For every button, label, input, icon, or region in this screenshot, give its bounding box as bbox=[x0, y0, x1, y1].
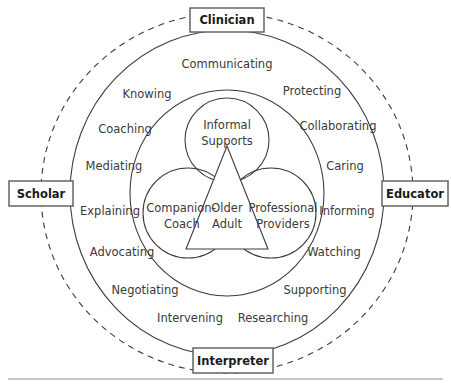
verb-collaborating: Collaborating bbox=[300, 119, 377, 133]
verb-mediating: Mediating bbox=[86, 159, 143, 173]
professional-providers-line2: Providers bbox=[256, 217, 309, 231]
core-label-professional-providers: Professional Providers bbox=[248, 201, 317, 231]
core-label-informal-supports: Informal Supports bbox=[201, 118, 252, 148]
verb-coaching: Coaching bbox=[98, 122, 152, 136]
role-model-diagram: Informal Supports Companion- Coach Profe… bbox=[0, 0, 451, 391]
verb-knowing: Knowing bbox=[122, 87, 171, 101]
verb-communicating: Communicating bbox=[182, 57, 273, 71]
anchor-box-interpreter[interactable]: Interpreter bbox=[193, 348, 273, 373]
anchor-box-educator[interactable]: Educator bbox=[382, 181, 448, 206]
verb-advocating: Advocating bbox=[90, 245, 154, 259]
verb-intervening: Intervening bbox=[157, 311, 223, 325]
verb-explaining: Explaining bbox=[80, 204, 140, 218]
older-adult-triangle bbox=[186, 146, 268, 249]
verb-researching: Researching bbox=[238, 311, 309, 325]
anchor-box-scholar[interactable]: Scholar bbox=[9, 181, 73, 206]
informal-supports-line1: Informal bbox=[203, 118, 251, 132]
verb-protecting: Protecting bbox=[283, 84, 341, 98]
companion-coach-line1: Companion- bbox=[146, 201, 216, 215]
interpreter-label: Interpreter bbox=[197, 354, 269, 368]
verb-caring: Caring bbox=[326, 159, 364, 173]
verb-supporting: Supporting bbox=[283, 283, 346, 297]
anchor-box-clinician[interactable]: Clinician bbox=[190, 8, 264, 32]
scholar-label: Scholar bbox=[17, 187, 66, 201]
companion-coach-line2: Coach bbox=[164, 217, 200, 231]
professional-providers-line1: Professional bbox=[248, 201, 317, 215]
clinician-label: Clinician bbox=[199, 13, 254, 27]
educator-label: Educator bbox=[386, 187, 444, 201]
older-adult-line2: Adult bbox=[212, 217, 242, 231]
verb-watching: Watching bbox=[307, 245, 361, 259]
informal-supports-line2: Supports bbox=[201, 134, 252, 148]
verb-negotiating: Negotiating bbox=[111, 283, 178, 297]
verb-informing: Informing bbox=[319, 204, 374, 218]
older-adult-line1: Older bbox=[211, 201, 243, 215]
